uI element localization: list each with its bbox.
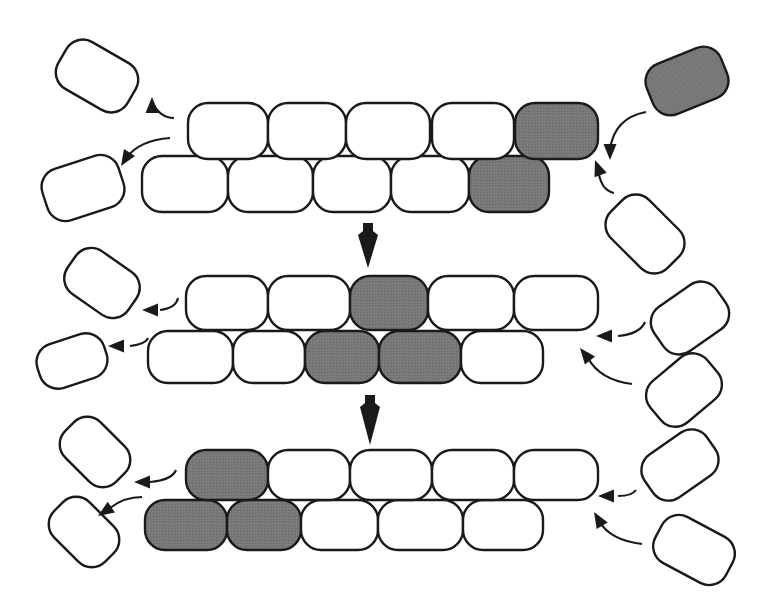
free-subunit-1 <box>52 409 138 495</box>
marked-subunit-bottom-row-3 <box>305 331 379 383</box>
subunit-bottom-row-5 <box>463 500 543 550</box>
down-arrow-icon <box>358 223 378 268</box>
subunit-bottom-row-2 <box>228 156 313 212</box>
flux-arrow-icon <box>142 298 178 317</box>
subunit-top-row-1 <box>188 103 268 159</box>
flux-arrow-icon <box>98 497 142 516</box>
flux-arrow-icon <box>134 470 176 489</box>
marked-subunit-bottom-row-2 <box>227 500 301 550</box>
marked-subunit-top-row-1 <box>186 450 268 500</box>
free-subunit-3 <box>643 274 736 362</box>
free-marked-subunit-3 <box>640 41 734 121</box>
subunit-top-row-4 <box>432 450 514 500</box>
flux-arrow-icon <box>596 322 645 343</box>
free-subunit-2 <box>32 328 113 393</box>
stage-2 <box>148 276 598 383</box>
free-subunit-4 <box>638 346 729 435</box>
free-subunit-4 <box>598 187 693 282</box>
subunit-top-row-3 <box>346 103 430 159</box>
flux-arrow-icon <box>580 348 632 384</box>
stage-1 <box>142 103 598 212</box>
free-subunit-2 <box>37 150 130 226</box>
subunit-bottom-row-4 <box>391 156 469 212</box>
flux-arrow-icon <box>595 160 614 193</box>
subunit-bottom-row-2 <box>233 331 305 383</box>
subunit-bottom-row-5 <box>461 331 543 383</box>
subunit-bottom-row-1 <box>142 156 228 212</box>
subunit-top-row-5 <box>514 276 598 330</box>
diagram-svg <box>0 0 769 601</box>
free-subunit-1 <box>57 240 147 325</box>
subunit-top-row-2 <box>268 103 346 159</box>
free-subunit-1 <box>49 33 145 120</box>
subunit-top-row-2 <box>268 276 350 330</box>
flux-arrow-icon <box>594 512 642 544</box>
subunit-top-row-4 <box>432 103 514 159</box>
subunit-top-row-4 <box>428 276 514 330</box>
marked-subunit-bottom-row-4 <box>379 331 461 383</box>
subunit-top-row-5 <box>514 450 598 500</box>
subunit-top-row-2 <box>268 450 350 500</box>
subunit-bottom-row-1 <box>148 331 233 383</box>
treadmilling-diagram <box>0 0 769 601</box>
free-subunit-4 <box>646 508 741 591</box>
marked-subunit-top-row-5 <box>515 103 598 159</box>
cell-layer <box>142 103 598 550</box>
flux-arrow-icon <box>108 338 148 353</box>
free-subunit-3 <box>634 422 726 508</box>
subunit-bottom-row-3 <box>313 156 391 212</box>
free-subunit-2 <box>41 489 127 575</box>
stage-3 <box>145 450 598 550</box>
marked-subunit-top-row-3 <box>350 276 428 330</box>
flux-arrow-icon <box>604 112 647 160</box>
flux-arrow-icon <box>146 97 175 118</box>
flux-arrow-icon <box>598 490 636 503</box>
marked-subunit-bottom-row-5 <box>469 156 549 212</box>
subunit-bottom-row-3 <box>301 500 378 550</box>
marked-subunit-bottom-row-1 <box>145 500 227 550</box>
subunit-top-row-3 <box>350 450 432 500</box>
down-arrow-icon <box>360 395 380 445</box>
subunit-top-row-1 <box>186 276 268 330</box>
subunit-bottom-row-4 <box>378 500 463 550</box>
